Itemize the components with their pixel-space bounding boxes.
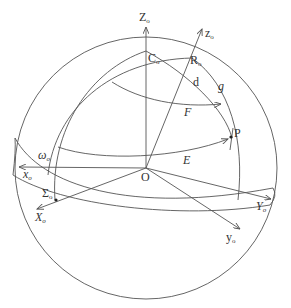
point-Sigma0 xyxy=(54,198,57,201)
point-P xyxy=(229,135,232,138)
label-Y0: Yo xyxy=(256,199,267,214)
label-x0: xo xyxy=(22,167,32,182)
arc-E xyxy=(58,139,228,156)
meridian-C0-Sigma0 xyxy=(55,51,146,200)
axis-x0 xyxy=(19,167,146,168)
arc-R0-omega0 xyxy=(48,58,192,175)
label-d: d xyxy=(193,75,199,89)
label-Sigma0: Σo xyxy=(42,186,53,201)
label-R0: Ro xyxy=(190,53,202,68)
celestial-sphere-diagram: Zo zo Co Ro d g F P E O ωo xo Σo Xo Yo y… xyxy=(0,0,291,308)
label-y0: yo xyxy=(226,230,236,245)
label-Z0: Zo xyxy=(139,10,150,25)
label-P: P xyxy=(234,126,241,140)
tick-P xyxy=(230,128,233,150)
label-g: g xyxy=(218,79,224,93)
label-O: O xyxy=(141,170,150,184)
label-F: F xyxy=(183,105,192,119)
label-z0: zo xyxy=(205,26,214,41)
axis-z0 xyxy=(146,29,202,168)
label-omega0: ωo xyxy=(38,148,50,163)
label-C0: Co xyxy=(148,51,160,66)
label-E: E xyxy=(182,153,191,167)
arc-F xyxy=(112,82,221,105)
label-X0: Xo xyxy=(34,210,46,225)
axis-Y0 xyxy=(146,168,271,199)
